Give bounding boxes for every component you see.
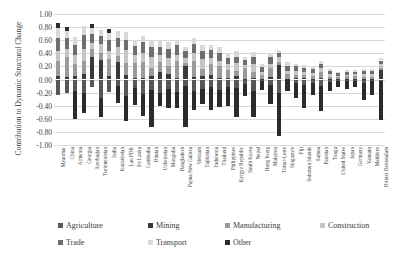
bar-column[interactable] [268,14,272,145]
bar-segment [90,57,94,79]
bar-segment [73,37,77,45]
bar-column[interactable] [192,14,196,145]
bar-segment [336,77,340,79]
bar-segment [294,83,298,97]
legend-item[interactable]: Construction [320,221,369,230]
bar-segment [149,90,153,127]
bar-column[interactable] [90,14,94,145]
bar-segment [217,80,221,90]
bar-column[interactable] [345,14,349,145]
x-axis-label: Lao PDR [128,147,134,166]
bar-column[interactable] [285,14,289,145]
bar-column[interactable] [166,14,170,145]
bar-column[interactable] [260,14,264,145]
x-axis-label: Turkmenistan [102,147,108,176]
bar-series-group [54,14,385,145]
y-axis-tick-label: 0.80 [39,23,52,32]
bar-segment [56,51,60,61]
bar-column[interactable] [353,14,357,145]
bar-column[interactable] [336,14,340,145]
x-axis-category-labels: MyanmarChinaArmeniaGeorgiaAzerbaijanTurk… [54,147,385,219]
bar-segment [209,64,213,74]
bar-segment [260,72,264,75]
bar-column[interactable] [99,14,103,145]
bar-segment [260,75,264,79]
bar-segment [277,57,281,62]
bar-segment [234,71,238,76]
bar-segment [217,53,221,61]
bar-column[interactable] [209,14,213,145]
bar-column[interactable] [107,14,111,145]
x-axis-label: Philippines [230,147,236,170]
bar-segment [99,53,103,60]
legend-item[interactable]: Transport [148,238,187,247]
x-axis-label: Cambodia [145,147,151,168]
bar-column[interactable] [183,14,187,145]
bar-segment [82,80,86,94]
bar-segment [234,76,238,79]
bar-column[interactable] [116,14,120,145]
bar-segment [200,76,204,80]
bar-column[interactable] [124,14,128,145]
x-axis-label: Timor-Leste [281,147,287,173]
bar-segment [141,78,145,80]
legend-item[interactable]: Trade [58,238,84,247]
bar-segment [141,42,145,52]
bar-column[interactable] [370,14,374,145]
bar-column[interactable] [158,14,162,145]
bar-segment [379,70,383,79]
bar-column[interactable] [311,14,315,145]
bar-segment [285,62,289,65]
bar-column[interactable] [133,14,137,145]
bar-column[interactable] [243,14,247,145]
y-axis-tick-label: -0.60 [36,114,52,123]
bar-segment [133,80,137,89]
bar-column[interactable] [149,14,153,145]
bar-segment [379,61,383,65]
x-axis-label: Kyrgyz Republic [238,147,244,183]
bar-segment [99,98,103,118]
y-axis-tick-label: 1.00 [39,10,52,19]
bar-segment [65,49,69,57]
bar-segment [277,62,281,65]
bar-column[interactable] [217,14,221,145]
legend-swatch-icon [58,223,63,228]
bar-segment [200,89,204,105]
bar-segment [124,75,128,80]
bar-segment [158,40,162,47]
bar-column[interactable] [362,14,366,145]
bar-segment [116,56,120,63]
bar-column[interactable] [175,14,179,145]
bar-segment [65,31,69,38]
legend-item[interactable]: Other [225,238,251,247]
bar-column[interactable] [302,14,306,145]
bar-segment [294,71,298,75]
bar-segment [345,72,349,75]
bar-column[interactable] [65,14,69,145]
bar-segment [328,71,332,74]
legend-item[interactable]: Mining [148,221,180,230]
x-axis-label: China [69,147,75,159]
bar-column[interactable] [73,14,77,145]
bar-column[interactable] [251,14,255,145]
bar-segment [158,55,162,63]
bar-column[interactable] [82,14,86,145]
bar-column[interactable] [294,14,298,145]
x-axis-label: Sri Lanka [136,147,142,167]
bar-column[interactable] [379,14,383,145]
y-axis-tick-label: -1.00 [36,141,52,150]
bar-column[interactable] [319,14,323,145]
bar-segment [243,65,247,68]
bar-column[interactable] [56,14,60,145]
bar-column[interactable] [234,14,238,145]
bar-column[interactable] [277,14,281,145]
bar-column[interactable] [200,14,204,145]
legend-swatch-icon [148,240,153,245]
bar-segment [200,45,204,50]
legend-item[interactable]: Manufacturing [225,221,281,230]
bar-column[interactable] [141,14,145,145]
bar-column[interactable] [328,14,332,145]
legend-item[interactable]: Agriculture [58,221,103,230]
bar-column[interactable] [226,14,230,145]
bar-segment [285,71,289,74]
